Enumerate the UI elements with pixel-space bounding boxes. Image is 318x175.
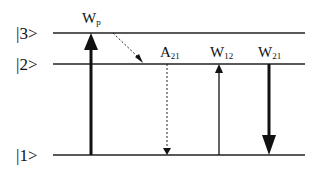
energy-level-diagram: |3> |2> |1> Wp A21 W12 W21 [0,0,318,175]
level-2-label: |2> [16,56,38,73]
pump-label: Wp [82,11,101,27]
nonradiative-arrow [113,33,143,63]
absorption-label: W12 [210,45,233,61]
spontaneous-label: A21 [160,45,180,61]
pump-arrow [84,33,98,155]
level-1-label: |1> [16,147,38,164]
spontaneous-arrow [163,64,171,155]
stimulated-emission-arrow [262,64,276,155]
absorption-arrow [215,64,223,155]
stimulated-label: W21 [258,45,281,61]
diagram-lines [0,0,318,175]
level-3-label: |3> [16,25,38,42]
